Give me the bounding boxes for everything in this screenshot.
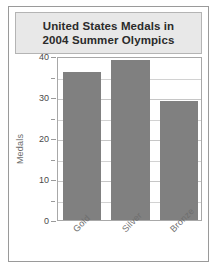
bar-silver [111, 60, 150, 220]
y-tick-label: 20 [39, 134, 49, 144]
plot-region: Medals 010203040 GoldSilverBronze [15, 57, 202, 256]
y-tick-mark-minor [51, 78, 55, 79]
y-tick-label: 40 [39, 52, 49, 62]
bar-bronze [160, 101, 199, 220]
x-axis-tick-labels: GoldSilverBronze [57, 223, 202, 257]
y-tick-mark-minor [51, 201, 55, 202]
chart-title-panel: United States Medals in 2004 Summer Olym… [15, 12, 202, 54]
y-tick-mark-major [51, 221, 56, 222]
y-axis-title-text: Medals [15, 134, 25, 164]
y-tick-label: 0 [44, 216, 49, 226]
chart-title-line-2: 2004 Summer Olympics [43, 33, 175, 48]
y-tick-mark-major [51, 139, 56, 140]
y-axis-tick-labels: 010203040 [29, 57, 51, 221]
y-tick-mark-minor [51, 119, 55, 120]
y-tick-label: 30 [39, 93, 49, 103]
chart-figure: United States Medals in 2004 Summer Olym… [8, 6, 209, 262]
y-tick-mark-major [51, 57, 56, 58]
y-tick-label: 10 [39, 175, 49, 185]
y-tick-mark-major [51, 180, 56, 181]
y-axis-title: Medals [13, 119, 27, 179]
y-tick-mark-minor [51, 160, 55, 161]
y-tick-mark-major [51, 98, 56, 99]
chart-title-line-1: United States Medals in [43, 19, 174, 34]
plot-axes [57, 57, 202, 221]
bar-gold [63, 72, 102, 220]
